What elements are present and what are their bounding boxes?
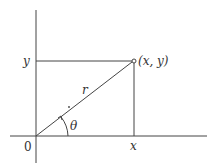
point-marker bbox=[132, 59, 136, 63]
radius-line bbox=[36, 62, 132, 136]
radius-label: r bbox=[82, 83, 89, 97]
point-label: (x, y) bbox=[138, 54, 169, 68]
radius-dot bbox=[68, 106, 70, 108]
y-label: y bbox=[22, 54, 30, 68]
origin-label: 0 bbox=[24, 140, 32, 154]
x-label: x bbox=[130, 139, 137, 153]
angle-label: θ bbox=[70, 119, 78, 133]
polar-coordinate-diagram: y x 0 r θ (x, y) bbox=[0, 0, 216, 166]
